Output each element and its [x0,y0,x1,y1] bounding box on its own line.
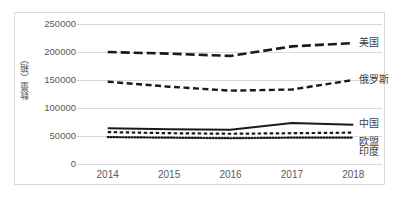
y-tick-label: 200000 [24,47,76,57]
x-tick-label: 2014 [97,170,119,180]
x-tick-label: 2017 [281,170,303,180]
line-chart-figure: 数量（箱） 050000100000150000200000250000 美国俄… [14,12,385,185]
x-tick-label: 2015 [158,170,180,180]
y-tick-label: 100000 [24,103,76,113]
y-tick-label: 50000 [24,131,76,141]
x-tick-label: 2018 [342,170,364,180]
y-tick-label: 250000 [24,19,76,29]
x-axis-tick-labels: 20142015201620172018 [77,13,382,184]
y-tick-label: 0 [24,159,76,169]
x-tick-label: 2016 [219,170,241,180]
y-tick-label: 150000 [24,75,76,85]
y-axis-tick-labels: 050000100000150000200000250000 [18,13,76,184]
